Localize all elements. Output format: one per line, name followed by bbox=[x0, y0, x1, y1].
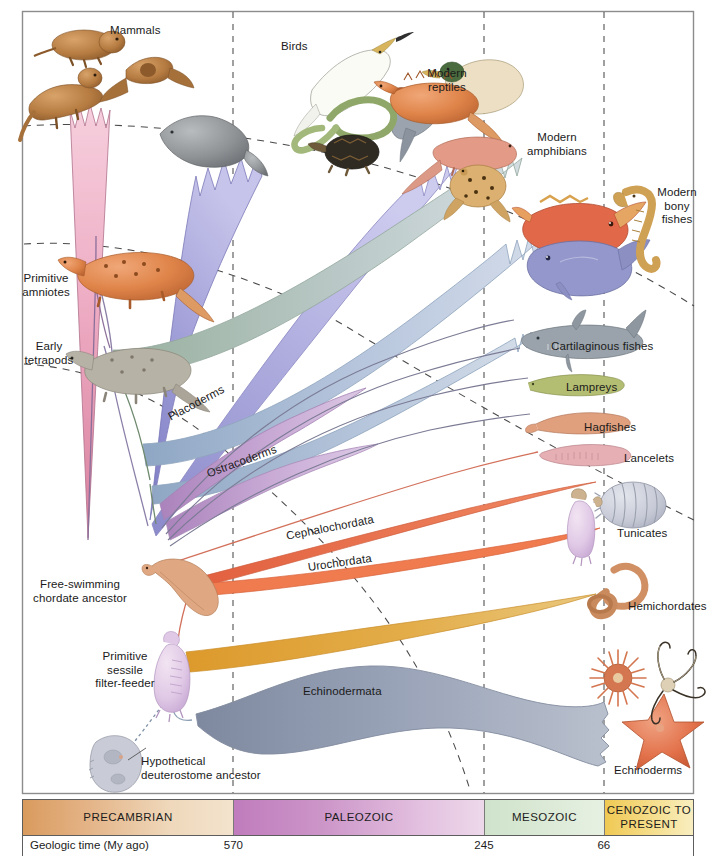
label-mammals: Mammals bbox=[110, 24, 161, 38]
label-modern-amphibians: Modern amphibians bbox=[518, 131, 596, 158]
label-hypothetical-deuterostome-ancestor: Hypothetical deuterostome ancestor bbox=[141, 755, 261, 782]
label-birds: Birds bbox=[281, 40, 308, 54]
era-row: PRECAMBRIAN PALEOZOIC MESOZOIC CENOZOIC … bbox=[23, 800, 693, 835]
label-primitive-amniotes: Primitive amniotes bbox=[13, 272, 79, 299]
tick-66: 66 bbox=[597, 839, 610, 851]
phylogeny-figure: Mammals Birds Modern reptiles Modern amp… bbox=[0, 0, 716, 865]
label-free-swimming-chordate-ancestor: Free-swimming chordate ancestor bbox=[28, 578, 132, 605]
time-axis-label: Geologic time (My ago) bbox=[30, 839, 149, 851]
time-axis-row: Geologic time (My ago) 570 245 66 bbox=[23, 835, 693, 857]
diagram-canvas: Mammals Birds Modern reptiles Modern amp… bbox=[0, 0, 716, 865]
illustration-sea-urchin bbox=[590, 650, 646, 706]
illustration-hypothetical-deuterostome-ancestor bbox=[89, 736, 142, 793]
label-modern-reptiles: Modern reptiles bbox=[415, 67, 479, 94]
era-cenozoic: CENOZOIC TO PRESENT bbox=[605, 800, 693, 835]
label-echinodermata: Echinodermata bbox=[303, 685, 382, 699]
label-hagfishes: Hagfishes bbox=[584, 421, 636, 435]
label-early-tetrapods: Early tetrapods bbox=[21, 340, 77, 367]
label-tunicates: Tunicates bbox=[617, 527, 667, 541]
era-precambrian: PRECAMBRIAN bbox=[23, 800, 234, 835]
geologic-timescale: PRECAMBRIAN PALEOZOIC MESOZOIC CENOZOIC … bbox=[22, 799, 694, 856]
era-mesozoic: MESOZOIC bbox=[485, 800, 605, 835]
label-lampreys: Lampreys bbox=[566, 381, 617, 395]
label-cartilaginous-fishes: Cartilaginous fishes bbox=[551, 340, 653, 354]
label-lancelets: Lancelets bbox=[624, 452, 674, 466]
label-primitive-sessile-filter-feeder: Primitive sessile filter-feeder bbox=[94, 650, 156, 691]
label-modern-bony-fishes: Modern bony fishes bbox=[649, 186, 705, 227]
era-paleozoic: PALEOZOIC bbox=[234, 800, 485, 835]
label-echinoderms: Echinoderms bbox=[614, 764, 682, 778]
label-hemichordates: Hemichordates bbox=[628, 600, 707, 614]
tick-570: 570 bbox=[224, 839, 243, 851]
tick-245: 245 bbox=[474, 839, 493, 851]
